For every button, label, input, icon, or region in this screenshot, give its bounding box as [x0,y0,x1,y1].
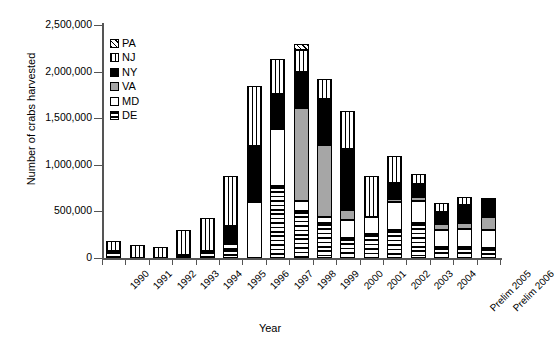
bar-segment-nj [340,111,355,149]
bar-prelim-2006 [481,25,496,258]
bar-segment-nj [223,176,238,225]
legend-label: PA [122,38,136,49]
bar-2004 [434,25,449,258]
legend-swatch-md-icon [110,97,119,106]
bar-segment-md [387,202,402,230]
x-tick-label: 2001 [385,268,409,292]
bar-segment-nj [176,230,191,255]
x-tick-label: 1998 [315,268,339,292]
x-axis-line [102,258,502,260]
bar-segment-nj [317,79,332,99]
x-tick-label: 1992 [174,268,198,292]
bar-segment-md [364,217,379,235]
bar-segment-de [340,238,355,258]
bar-segment-ny [481,198,496,216]
x-tick-label: 2002 [408,268,432,292]
y-tick-label: 500,000 [14,204,92,216]
bar-segment-ny [434,212,449,224]
y-tick [94,118,102,119]
bar-1995 [223,25,238,258]
bar-segment-nj [153,247,168,258]
bar-segment-md [411,201,426,223]
bar-segment-ny [317,99,332,145]
bar-segment-nj [457,197,472,205]
bar-segment-de [200,251,215,258]
bar-segment-va [411,197,426,201]
y-tick [94,72,102,73]
bar-segment-nj [364,176,379,217]
x-tick [430,260,431,265]
legend-item-nj: NJ [110,51,139,66]
x-tick-label: 1993 [197,268,221,292]
bar-segment-de [481,248,496,258]
bar-segment-de [294,211,309,258]
bar-segment-nj [270,59,285,94]
bar-2000 [340,25,355,258]
bar-segment-de [364,234,379,258]
bar-segment-md [294,201,309,211]
legend-swatch-va-icon [110,82,119,91]
x-tick-label: 1996 [268,268,292,292]
bar-1992 [153,25,168,258]
x-tick [196,260,197,265]
legend-label: NJ [122,52,135,63]
x-tick-label: 2000 [361,268,385,292]
bar-segment-md [270,129,285,186]
bar-segment-md [481,230,496,248]
bar-segment-nj [200,218,215,251]
x-tick [172,260,173,265]
bar-1994 [200,25,215,258]
bar-segment-nj [294,50,309,71]
bar-segment-de [387,230,402,258]
bar-segment-nj [130,245,145,258]
y-tick-label: 2,000,000 [14,65,92,77]
bar-segment-va [294,108,309,201]
bar-segment-ny [223,226,238,244]
x-tick [149,260,150,265]
bar-segment-md [247,202,262,258]
bar-segment-ny [340,149,355,210]
x-tick [500,260,501,265]
bar-segment-de [176,255,191,258]
bar-segment-pa [294,44,309,50]
legend-item-md: MD [110,94,139,109]
y-tick-label: 1,000,000 [14,158,92,170]
bar-segment-nj [106,241,121,252]
bar-segment-nj [387,156,402,183]
y-tick [94,258,102,259]
bar-1993 [176,25,191,258]
x-tick [289,260,290,265]
bar-2003 [411,25,426,258]
x-tick-label: 1990 [127,268,151,292]
bar-segment-va [434,224,449,230]
y-tick [94,211,102,212]
bar-segment-nj [411,174,426,184]
bar-segment-nj [247,86,262,147]
y-tick-label: 2,500,000 [14,18,92,30]
x-tick [383,260,384,265]
bar-2002 [387,25,402,258]
x-tick [242,260,243,265]
bar-segment-ny [387,183,402,199]
y-tick [94,165,102,166]
x-tick-label: 1997 [291,268,315,292]
legend-swatch-pa-icon [110,39,119,48]
bar-segment-de [434,247,449,258]
bar-segment-de [317,223,332,258]
bar-segment-md [317,217,332,223]
bar-segment-va [481,217,496,230]
x-tick-label: 1999 [338,268,362,292]
x-tick-label: 1994 [221,268,245,292]
legend-label: VA [122,81,136,92]
x-tick-label: 2003 [432,268,456,292]
legend-item-pa: PA [110,36,139,51]
x-tick [313,260,314,265]
bar-segment-de [270,186,285,258]
bar-segment-de [411,223,426,258]
legend-swatch-nj-icon [110,53,119,62]
bar-2001 [364,25,379,258]
bar-segment-ny [247,146,262,202]
legend-item-va: VA [110,80,139,95]
bar-segment-va [317,145,332,217]
